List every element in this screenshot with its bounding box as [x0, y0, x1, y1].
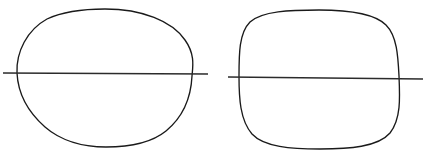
- figure-background: [0, 0, 431, 154]
- figure-canvas: [0, 0, 431, 154]
- left-axis-line: [3, 73, 208, 74]
- figure-svg: [0, 0, 431, 154]
